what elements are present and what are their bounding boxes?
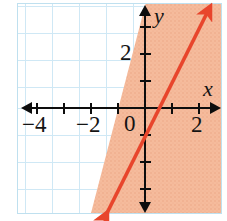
coordinate-plane-figure: −4 −2 0 2 2 y x — [0, 0, 227, 221]
origin-label: 0 — [124, 112, 136, 135]
x-axis-name-label: x — [203, 78, 213, 100]
inequality-boundary-line — [107, 7, 210, 213]
x-axis-label-pos2: 2 — [191, 113, 203, 136]
x-axis-label-neg2: −2 — [76, 113, 100, 136]
boundary-line-overlay — [0, 0, 227, 221]
x-axis-label-neg4: −4 — [22, 113, 46, 136]
y-axis-label-pos2: 2 — [120, 41, 132, 64]
y-axis-name-label: y — [154, 5, 164, 27]
